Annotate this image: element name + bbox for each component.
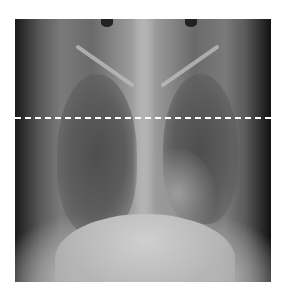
chest-xray-image [15, 19, 271, 282]
left-lung-field [57, 74, 137, 234]
dashed-reference-line [15, 117, 271, 119]
right-shoulder-shadow [185, 19, 197, 27]
left-shoulder-shadow [101, 19, 113, 27]
